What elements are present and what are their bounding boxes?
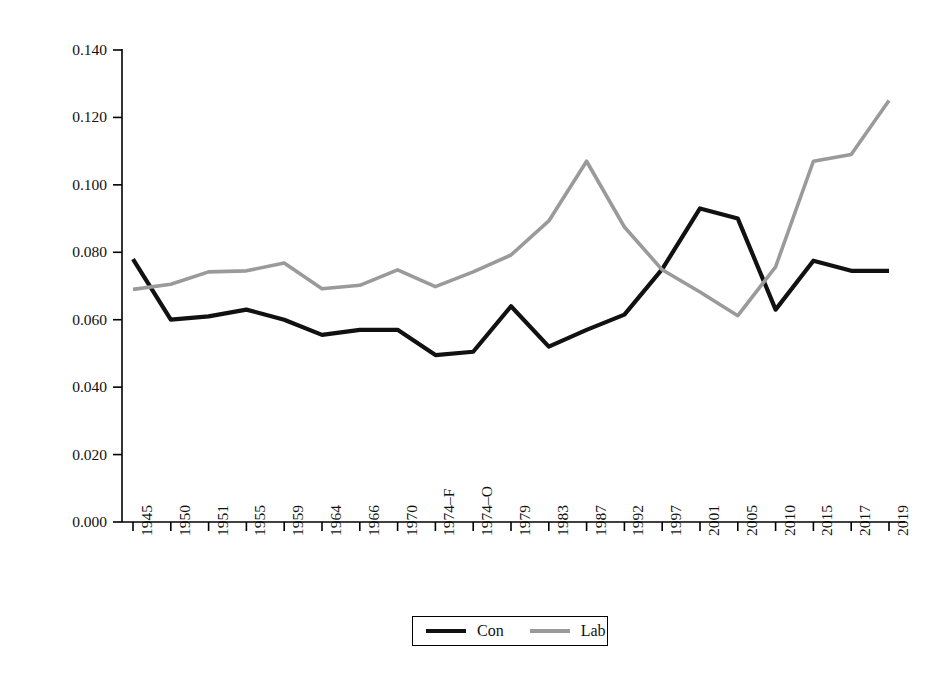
x-tick-marks (133, 522, 889, 531)
legend-label-con: Con (477, 622, 504, 640)
legend-entry: Lab (530, 622, 612, 640)
data-series-group (133, 101, 889, 356)
legend-swatch-con (426, 629, 466, 634)
legend-label-lab: Lab (581, 622, 606, 640)
chart-figure: Increase in majority per seat won (vote … (0, 0, 927, 676)
plot-area (0, 0, 927, 676)
y-tick-marks (113, 50, 122, 522)
legend-entry: Con (426, 622, 510, 640)
legend-swatch-lab (530, 629, 570, 633)
axis-lines (122, 49, 905, 522)
chart-legend: ConLab (412, 616, 608, 646)
